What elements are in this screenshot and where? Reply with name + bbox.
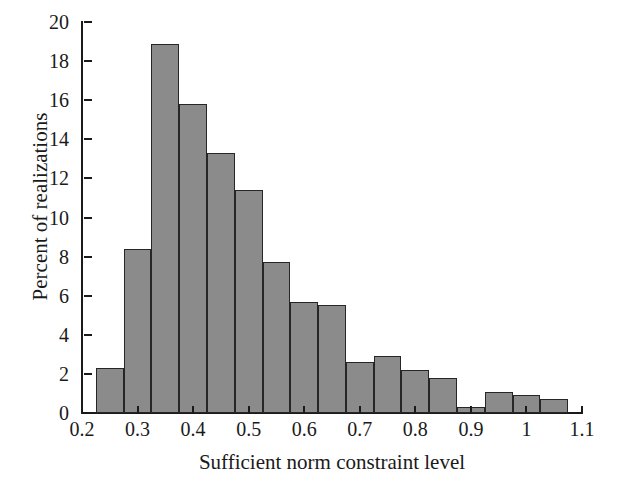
histogram-bar <box>429 378 457 413</box>
x-tick-mark <box>137 406 139 413</box>
x-tick-mark <box>359 406 361 413</box>
y-tick-mark <box>84 256 92 258</box>
histogram-bar <box>124 249 152 413</box>
x-tick-mark <box>414 406 416 413</box>
y-tick-label: 2 <box>59 363 69 383</box>
x-tick-mark <box>470 406 472 413</box>
y-tick-label: 10 <box>49 207 69 227</box>
y-tick-label: 14 <box>49 129 69 149</box>
y-tick-mark <box>84 412 92 414</box>
x-tick-label: 0.9 <box>458 419 483 439</box>
plot-area: 02468101214161820 0.20.30.40.50.60.70.80… <box>82 22 582 413</box>
y-tick-label: 18 <box>49 51 69 71</box>
x-tick-label: 1 <box>521 419 531 439</box>
x-tick-mark <box>581 406 583 413</box>
x-tick-label: 0.8 <box>403 419 428 439</box>
y-tick-mark <box>84 99 92 101</box>
y-tick-mark <box>84 295 92 297</box>
y-tick-mark <box>84 138 92 140</box>
histogram-bar <box>96 368 124 413</box>
x-tick-label: 0.6 <box>292 419 317 439</box>
x-tick-mark <box>525 406 527 413</box>
x-tick-label: 0.5 <box>236 419 261 439</box>
y-tick-label: 8 <box>59 246 69 266</box>
y-tick-label: 12 <box>49 168 69 188</box>
x-tick-label: 0.2 <box>70 419 95 439</box>
histogram-bar <box>485 392 513 414</box>
x-tick-label: 1.1 <box>570 419 595 439</box>
histogram-bar <box>151 44 179 413</box>
histogram-bar <box>374 356 402 413</box>
x-axis-title: Sufficient norm constraint level <box>82 452 582 473</box>
y-axis-title: Percent of realizations <box>30 7 51 407</box>
histogram-bar <box>207 153 235 413</box>
y-tick-mark <box>84 60 92 62</box>
y-tick-label: 4 <box>59 324 69 344</box>
y-tick-label: 0 <box>59 403 69 423</box>
y-tick-mark <box>84 334 92 336</box>
y-tick-mark <box>84 373 92 375</box>
histogram-bar <box>318 305 346 413</box>
x-tick-mark <box>303 406 305 413</box>
y-tick-label: 6 <box>59 285 69 305</box>
histogram-bar <box>290 302 318 413</box>
x-tick-mark <box>192 406 194 413</box>
y-tick-mark <box>84 21 92 23</box>
x-tick-label: 0.4 <box>181 419 206 439</box>
histogram-bar <box>179 104 207 413</box>
x-tick-mark <box>248 406 250 413</box>
histogram-bar <box>235 190 263 413</box>
y-tick-mark <box>84 217 92 219</box>
y-tick-label: 16 <box>49 90 69 110</box>
x-tick-label: 0.7 <box>347 419 372 439</box>
y-tick-mark <box>84 177 92 179</box>
histogram-bar <box>263 262 291 413</box>
x-tick-mark <box>81 406 83 413</box>
x-tick-label: 0.3 <box>125 419 150 439</box>
y-tick-label: 20 <box>49 12 69 32</box>
histogram-figure: 02468101214161820 0.20.30.40.50.60.70.80… <box>0 0 622 491</box>
histogram-bar <box>540 399 568 413</box>
